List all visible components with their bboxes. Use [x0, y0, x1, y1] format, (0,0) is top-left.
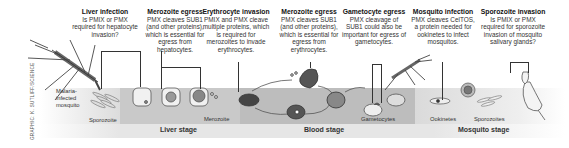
callout-gametocyte-egress: Gametocyte egress PMX cleavage of SUB1 c…: [342, 8, 406, 46]
callout-text: PMX cleaves SUB1 (and other proteins), w…: [146, 16, 205, 53]
callout-text: PMX cleaves CelTOS, a protein needed for…: [411, 16, 474, 46]
ookinete-icon: [430, 83, 475, 104]
stage-label-mosquito: Mosquito stage: [458, 126, 509, 133]
erythrocyte-cycle: [239, 69, 365, 119]
label-ookinetes: Ookinetes: [430, 116, 456, 122]
callout-text: Is PMIX or PMX required for hepatocyte i…: [72, 16, 138, 38]
leader-line: [442, 62, 443, 100]
callout-erythrocyte-invasion: Erythrocyte invasion PMIX and PMX cleave…: [202, 8, 270, 54]
callout-sporozoite-invasion: Sporozoite invasion Is PMIX or PMX requi…: [478, 8, 548, 46]
callout-merozoite-egress-blood: Merozoite egress PMX cleaves SUB1 (and o…: [274, 8, 344, 54]
callout-title: Gametocyte egress: [342, 8, 406, 16]
callout-mosquito-infection: Mosquito infection PMX cleaves CelTOS, a…: [410, 8, 476, 46]
callout-title: Liver infection: [72, 8, 138, 16]
stage-label-liver: Liver stage: [160, 126, 197, 133]
label-gametocytes: Gametocytes: [361, 116, 395, 122]
label-mosquito: Malaria-infected mosquito: [56, 88, 84, 109]
callout-text: Is PMIX or PMX required for sporozoite i…: [481, 16, 545, 46]
leader-line: [161, 67, 201, 89]
leader-line: [310, 62, 311, 68]
callout-text: PMX cleaves SUB1 (and other proteins), w…: [280, 16, 339, 53]
callout-merozoite-egress-liver: Merozoite egress PMX cleaves SUB1 (and o…: [141, 8, 209, 54]
leader-line: [510, 62, 529, 73]
stage-label-blood: Blood stage: [304, 126, 344, 133]
callout-liver-infection: Liver infection Is PMIX or PMX required …: [72, 8, 138, 38]
callout-title: Merozoite egress: [274, 8, 344, 16]
hepatocyte-icon: [133, 88, 218, 106]
leader-line: [372, 64, 382, 103]
mosquito-feeding-icon: [385, 55, 432, 90]
sporozoite-icon: [90, 91, 120, 109]
callout-title: Sporozoite invasion: [478, 8, 548, 16]
leader-line: [140, 51, 141, 87]
leader-line: [101, 51, 102, 89]
graphic-credit: GRAPHIC: K. SUTLIFF/SCIENCE: [30, 62, 35, 140]
sporozoites-icon: [477, 95, 502, 107]
callout-text: PMX cleavage of SUB1 could also be impor…: [342, 16, 406, 46]
label-merozoite: Merozoite: [204, 116, 229, 122]
label-sporozoites: Sporozoites: [474, 116, 505, 122]
leader-line: [238, 62, 239, 92]
callout-text: PMIX and PMX cleave multiple proteins, w…: [203, 16, 269, 53]
label-sporozoite: Sporozoite: [89, 117, 117, 123]
gametocyte-icon: [364, 94, 405, 116]
callout-title: Merozoite egress: [141, 8, 209, 16]
callout-title: Erythrocyte invasion: [202, 8, 270, 16]
callout-title: Mosquito infection: [410, 8, 476, 16]
leader-line: [101, 51, 140, 52]
salivary-gland-icon: [522, 72, 545, 120]
